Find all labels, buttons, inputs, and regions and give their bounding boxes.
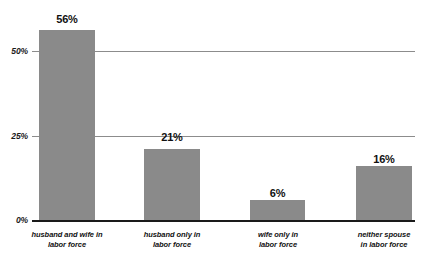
y-axis-label-50: 50%	[0, 46, 28, 56]
bar-neither-spouse-in-labor-force[interactable]	[356, 166, 412, 220]
bar-husband-only-in-labor-force[interactable]	[144, 149, 200, 220]
category-label-line1: neither spouse	[358, 230, 411, 239]
tick-mark-25	[32, 136, 39, 137]
bar-value-label-4: 16%	[356, 153, 412, 165]
bar-value-label-1: 56%	[39, 13, 95, 25]
bar-value-label-2: 21%	[144, 131, 200, 143]
y-axis-label-0: 0%	[0, 215, 28, 225]
category-label-wife-only-in-labor-force: wife only in labor force	[228, 230, 328, 250]
gridline-50	[39, 51, 415, 52]
category-label-line1: husband only in	[144, 230, 201, 239]
category-label-line1: wife only in	[258, 230, 298, 239]
y-axis-label-25: 25%	[0, 131, 28, 141]
category-label-neither-spouse-in-labor-force: neither spouse in labor force	[334, 230, 430, 250]
category-label-line2: labor force	[228, 240, 328, 250]
bar-wife-only-in-labor-force[interactable]	[250, 200, 305, 220]
tick-mark-50	[32, 51, 39, 52]
bar-husband-and-wife-in-labor-force[interactable]	[39, 30, 95, 220]
category-label-line2: in labor force	[334, 240, 430, 250]
bar-chart: 50% 25% 0% 56% husband and wife in labor…	[0, 0, 430, 270]
gridline-25	[39, 136, 415, 137]
bar-value-label-3: 6%	[250, 187, 305, 199]
category-label-line2: labor force	[122, 240, 222, 250]
category-label-husband-and-wife-in-labor-force: husband and wife in labor force	[17, 230, 117, 250]
axis-baseline-0	[39, 220, 415, 222]
tick-mark-0	[32, 220, 39, 222]
category-label-line1: husband and wife in	[31, 230, 102, 239]
category-label-line2: labor force	[17, 240, 117, 250]
category-label-husband-only-in-labor-force: husband only in labor force	[122, 230, 222, 250]
